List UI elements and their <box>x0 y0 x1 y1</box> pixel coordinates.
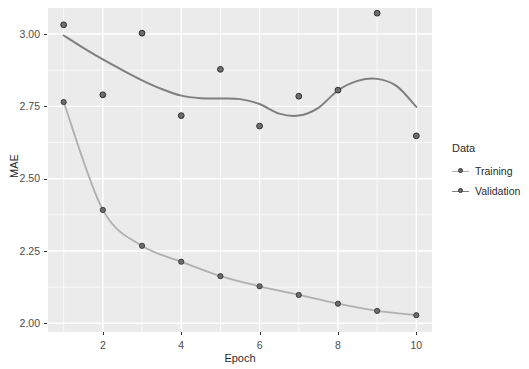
legend-title: Data <box>452 143 529 154</box>
training-point <box>296 292 301 297</box>
training-point <box>375 308 380 313</box>
legend-items: TrainingValidation <box>452 162 529 200</box>
training-point <box>218 274 223 279</box>
y-tick-label: 2.25 <box>0 246 40 257</box>
y-tick-mark <box>44 34 47 35</box>
validation-point <box>335 87 341 93</box>
y-tick-mark <box>44 179 47 180</box>
validation-point <box>178 113 184 119</box>
training-point <box>100 207 105 212</box>
x-tick-mark <box>181 332 182 335</box>
legend-label: Training <box>475 165 513 177</box>
x-tick-label: 10 <box>401 340 431 351</box>
y-tick-label: 2.75 <box>0 101 40 112</box>
panel-background <box>48 8 432 332</box>
x-tick-mark <box>260 332 261 335</box>
y-axis-title: MAE <box>8 136 20 196</box>
plot-panel <box>48 8 432 332</box>
validation-point <box>61 22 67 28</box>
legend-key-icon <box>452 163 469 180</box>
training-point <box>335 301 340 306</box>
training-point <box>139 243 144 248</box>
x-tick-mark <box>338 332 339 335</box>
validation-point <box>413 133 419 139</box>
y-tick-label: 3.00 <box>0 29 40 40</box>
x-tick-label: 2 <box>88 340 118 351</box>
training-point <box>179 259 184 264</box>
x-axis-title: Epoch <box>48 352 432 364</box>
y-tick-label: 2.50 <box>0 173 40 184</box>
validation-point <box>139 30 145 36</box>
y-tick-mark <box>44 106 47 107</box>
y-tick-mark <box>44 323 47 324</box>
x-tick-mark <box>416 332 417 335</box>
validation-point <box>374 10 380 16</box>
training-point <box>61 99 66 104</box>
validation-point <box>257 123 263 129</box>
validation-point <box>100 92 106 98</box>
x-tick-label: 4 <box>166 340 196 351</box>
legend-key-point <box>458 188 463 193</box>
validation-point <box>218 66 224 72</box>
x-tick-label: 6 <box>245 340 275 351</box>
validation-point <box>296 93 302 99</box>
y-tick-label: 2.00 <box>0 318 40 329</box>
y-tick-mark <box>44 251 47 252</box>
x-tick-mark <box>103 332 104 335</box>
training-point <box>257 284 262 289</box>
chart-root: 3.002.752.502.252.00 246810 MAE Epoch Da… <box>0 0 529 369</box>
training-point <box>414 313 419 318</box>
legend-label: Validation <box>475 185 520 197</box>
legend-item-validation[interactable]: Validation <box>452 182 529 200</box>
plot-svg <box>48 8 432 332</box>
legend: Data TrainingValidation <box>452 143 529 202</box>
legend-item-training[interactable]: Training <box>452 162 529 180</box>
legend-key-icon <box>452 183 469 200</box>
legend-key-point <box>458 168 463 173</box>
x-tick-label: 8 <box>323 340 353 351</box>
